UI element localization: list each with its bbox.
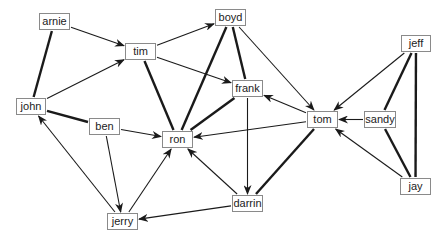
graph-canvas: arnietimboydfrankjohnbenrontomsandyjeffj… bbox=[0, 0, 446, 240]
edge-jeff-sandy bbox=[385, 53, 412, 110]
node-sandy: sandy bbox=[364, 111, 396, 128]
edge-jay-tom bbox=[336, 129, 403, 177]
edge-john-tim bbox=[47, 60, 124, 99]
edge-arnie-john bbox=[34, 31, 52, 97]
edge-tim-boyd bbox=[157, 24, 214, 46]
node-john: john bbox=[16, 98, 46, 115]
node-jerry: jerry bbox=[107, 213, 138, 230]
node-darrin: darrin bbox=[232, 195, 263, 212]
edge-tom-darrin bbox=[256, 129, 314, 194]
node-jeff: jeff bbox=[401, 35, 431, 52]
node-arnie: arnie bbox=[39, 13, 70, 30]
edge-tom-frank bbox=[264, 95, 306, 112]
node-boyd: boyd bbox=[215, 9, 246, 26]
node-frank: frank bbox=[232, 80, 263, 97]
edge-frank-ron bbox=[191, 98, 235, 130]
node-jay: jay bbox=[400, 178, 431, 195]
edge-boyd-tom bbox=[239, 27, 314, 110]
edge-ben-ron bbox=[121, 129, 161, 136]
node-tim: tim bbox=[125, 43, 156, 60]
edge-boyd-frank bbox=[233, 27, 245, 79]
edge-darrin-jerry bbox=[139, 206, 231, 219]
edge-tim-frank bbox=[157, 57, 231, 83]
node-ben: ben bbox=[89, 118, 120, 135]
edge-sandy-jay bbox=[385, 129, 410, 177]
edge-jerry-ron bbox=[129, 149, 171, 212]
edge-jeff-tom bbox=[334, 53, 404, 110]
edge-ben-jerry bbox=[106, 136, 120, 212]
edge-tom-ron bbox=[194, 122, 306, 137]
node-tom: tom bbox=[307, 111, 338, 128]
edge-john-ben bbox=[47, 111, 88, 122]
edge-arnie-tim bbox=[71, 27, 124, 45]
edge-tim-ron bbox=[144, 61, 173, 130]
edge-darrin-ron bbox=[188, 149, 237, 194]
node-ron: ron bbox=[162, 131, 193, 148]
